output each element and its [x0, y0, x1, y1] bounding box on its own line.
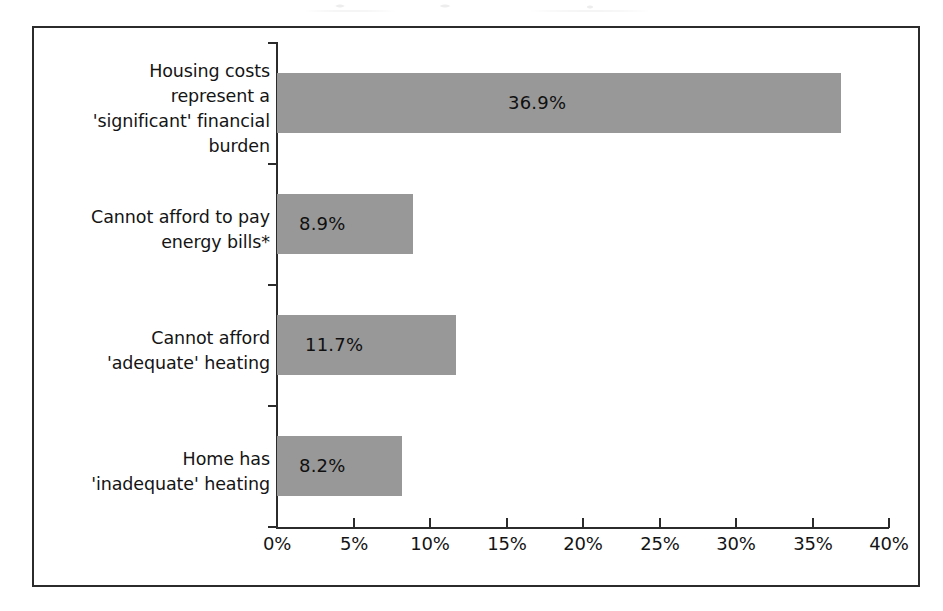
bar-value-label: 11.7%: [305, 315, 363, 375]
value-axis-tick: [429, 518, 431, 528]
bar-value-label: 8.9%: [299, 194, 346, 254]
value-axis-tick: [735, 518, 737, 528]
value-axis-tick-label: 20%: [548, 533, 618, 554]
value-axis-tick-label: 30%: [701, 533, 771, 554]
value-axis-tick-label: 25%: [625, 533, 695, 554]
category-label: Cannot afford to pay energy bills*: [20, 205, 270, 255]
value-axis-tick: [582, 518, 584, 528]
bar-group: Housing costs represent a 'significant' …: [34, 42, 922, 163]
plot-area: Housing costs represent a 'significant' …: [34, 28, 922, 589]
category-label: Cannot afford 'adequate' heating: [20, 326, 270, 376]
category-label: Home has 'inadequate' heating: [20, 447, 270, 497]
bar-group: Cannot afford to pay energy bills* 8.9%: [34, 163, 922, 284]
scan-artifact: [230, 2, 700, 12]
bar-value-label: 8.2%: [299, 436, 346, 496]
value-axis-tick: [276, 518, 278, 528]
value-axis-tick: [659, 518, 661, 528]
bar-value-label: 36.9%: [508, 73, 566, 133]
bar-group: Home has 'inadequate' heating 8.2%: [34, 405, 922, 526]
value-axis-tick-label: 15%: [472, 533, 542, 554]
value-axis-tick: [812, 518, 814, 528]
value-axis-tick-label: 10%: [395, 533, 465, 554]
value-axis-tick-label: 5%: [319, 533, 389, 554]
value-axis-tick-label: 40%: [854, 533, 924, 554]
bar[interactable]: [277, 315, 456, 375]
value-axis-tick: [353, 518, 355, 528]
value-axis-tick: [888, 518, 890, 528]
value-axis-tick-label: 35%: [778, 533, 848, 554]
chart-frame: Housing costs represent a 'significant' …: [32, 26, 920, 587]
value-axis-tick: [506, 518, 508, 528]
category-label: Housing costs represent a 'significant' …: [20, 59, 270, 159]
value-axis-tick-label: 0%: [242, 533, 312, 554]
bar-group: Cannot afford 'adequate' heating 11.7%: [34, 284, 922, 405]
